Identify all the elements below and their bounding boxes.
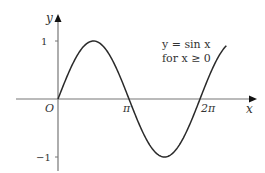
- sine-chart: y 1 −1 O π 2π x y = sin x for x ≥ 0: [0, 0, 265, 173]
- x-tick-label-2pi: 2π: [200, 102, 216, 115]
- x-axis-label: x: [246, 102, 253, 116]
- y-tick-label-neg1: −1: [36, 152, 51, 163]
- y-tick-label-1: 1: [41, 36, 47, 47]
- x-tick-label-pi: π: [122, 102, 131, 115]
- annotation-domain: for x ≥ 0: [162, 52, 211, 65]
- origin-label: O: [45, 102, 54, 115]
- annotation-equation: y = sin x: [161, 38, 211, 51]
- y-axis-arrow-icon: [55, 14, 62, 22]
- y-axis-label: y: [45, 11, 53, 25]
